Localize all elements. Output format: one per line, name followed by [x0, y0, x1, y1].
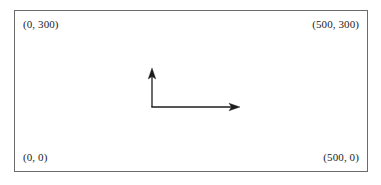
coordinate-frame: (0, 300) (500, 300) (0, 0) (500, 0)	[14, 10, 368, 172]
corner-label-bottom-right: (500, 0)	[323, 151, 359, 164]
corner-label-top-right: (500, 300)	[312, 18, 359, 31]
corner-label-bottom-left: (0, 0)	[23, 151, 47, 164]
corner-label-top-left: (0, 300)	[23, 18, 59, 31]
diagram-canvas: (0, 300) (500, 300) (0, 0) (500, 0)	[0, 0, 381, 185]
